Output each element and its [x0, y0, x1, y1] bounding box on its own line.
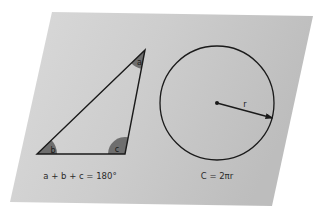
angle-a-label: a [137, 58, 142, 67]
angle-b-label: b [50, 146, 55, 155]
triangle-angle-sum-formula: a + b + c = 180° [43, 171, 116, 181]
angle-c-label: c [115, 145, 119, 154]
geometry-diagram: a b c a + b + c = 180° r C = 2πr [0, 0, 315, 216]
circumference-formula: C = 2πr [201, 171, 234, 181]
